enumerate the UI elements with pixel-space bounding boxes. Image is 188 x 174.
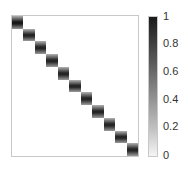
- colorbar-tick-0.8: 0.8: [163, 38, 178, 49]
- heatmap-plot-area: [11, 15, 139, 157]
- heatmap-cell-diagonal: [35, 41, 46, 54]
- heatmap-cell-diagonal: [46, 54, 57, 67]
- colorbar-tick-0: 0: [163, 150, 169, 161]
- colorbar-tick-0.4: 0.4: [163, 94, 178, 105]
- heatmap-cell-diagonal: [12, 16, 23, 29]
- heatmap-cell-diagonal: [92, 105, 103, 118]
- colorbar-tick-0.2: 0.2: [163, 121, 178, 132]
- colorbar-tick-0.6: 0.6: [163, 66, 178, 77]
- heatmap-cell-diagonal: [69, 80, 80, 93]
- heatmap-cell-diagonal: [81, 92, 92, 105]
- heatmap-cell-diagonal: [127, 143, 138, 156]
- heatmap-cell-diagonal: [115, 131, 126, 144]
- heatmap-cell-diagonal: [104, 118, 115, 131]
- heatmap-cell-diagonal: [58, 67, 69, 80]
- colorbar: [148, 16, 158, 157]
- heatmap-cell-diagonal: [23, 29, 34, 42]
- colorbar-tick-1: 1: [163, 11, 169, 22]
